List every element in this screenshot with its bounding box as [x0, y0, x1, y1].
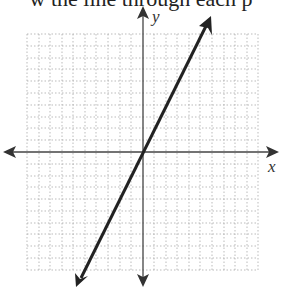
- line-top-arrow-icon: [199, 16, 212, 35]
- coordinate-plane: y x: [0, 0, 282, 287]
- x-axis-label: x: [267, 157, 276, 176]
- y-axis-label: y: [150, 7, 160, 26]
